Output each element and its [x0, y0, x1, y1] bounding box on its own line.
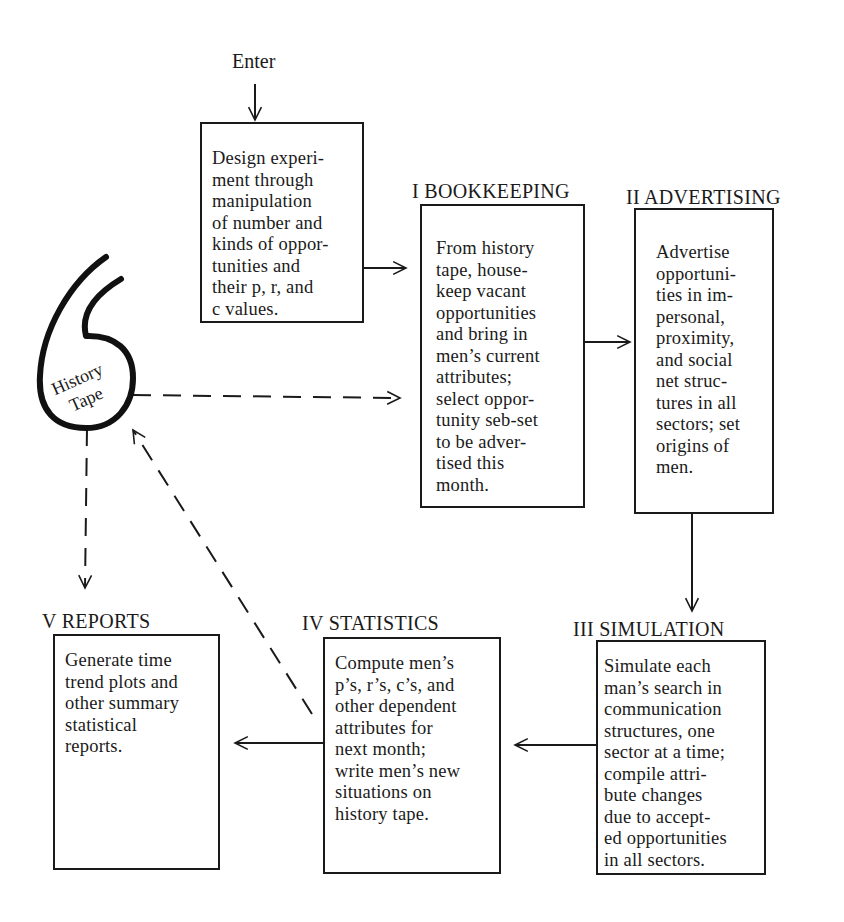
- reports-title: V REPORTS: [42, 610, 150, 633]
- dashed-arrow-tape-to-bookkeeping: [133, 395, 400, 398]
- simulation-text: Simulate each man’s search in communicat…: [604, 656, 727, 871]
- bookkeeping-box: From history tape, house- keep vacant op…: [420, 204, 585, 508]
- dashed-arrow-tape-to-reports: [85, 428, 87, 588]
- reports-box: Generate time trend plots and other summ…: [53, 634, 220, 870]
- enter-label: Enter: [232, 50, 275, 73]
- advertising-title: II ADVERTISING: [626, 186, 781, 209]
- design-experiment-box: Design experi- ment through manipulation…: [200, 122, 364, 323]
- advertising-box: Advertise opportuni- ties in im- persona…: [634, 208, 774, 514]
- bookkeeping-title: I BOOKKEEPING: [412, 180, 570, 203]
- simulation-box: Simulate each man’s search in communicat…: [596, 640, 766, 875]
- statistics-box: Compute men’s p’s, r’s, c’s, and other d…: [323, 637, 501, 874]
- advertising-text: Advertise opportuni- ties in im- persona…: [656, 242, 740, 479]
- design-experiment-text: Design experi- ment through manipulation…: [212, 148, 329, 320]
- simulation-title: III SIMULATION: [573, 618, 724, 641]
- reports-text: Generate time trend plots and other summ…: [65, 650, 179, 758]
- statistics-text: Compute men’s p’s, r’s, c’s, and other d…: [335, 653, 460, 825]
- bookkeeping-text: From history tape, house- keep vacant op…: [436, 238, 540, 496]
- statistics-title: IV STATISTICS: [302, 612, 439, 635]
